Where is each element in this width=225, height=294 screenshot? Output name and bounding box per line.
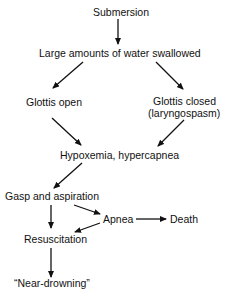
- node-apnea: Apnea: [103, 213, 133, 225]
- node-hypoxemia: Hypoxemia, hypercapnea: [60, 149, 179, 161]
- node-water-swallowed: Large amounts of water swallowed: [39, 47, 201, 59]
- arrow-water-to-glottis-open: [53, 62, 83, 88]
- node-glottis-open: Glottis open: [26, 96, 82, 108]
- node-glottis-closed: Glottis closed: [153, 95, 216, 107]
- arrow-glottis-closed-to-hypoxemia: [158, 120, 184, 146]
- flow-arrows: [0, 0, 225, 294]
- arrow-water-to-glottis-closed: [156, 62, 183, 89]
- node-submersion: Submersion: [93, 6, 149, 18]
- node-near-drowning: “Near-drowning”: [14, 277, 90, 289]
- node-laryngospasm: (laryngospasm): [148, 107, 220, 119]
- arrow-hypoxemia-to-gasp: [54, 163, 82, 188]
- node-death: Death: [170, 213, 198, 225]
- node-gasp-aspiration: Gasp and aspiration: [5, 190, 99, 202]
- arrow-glottis-open-to-hypoxemia: [52, 118, 81, 145]
- node-resuscitation: Resuscitation: [24, 233, 87, 245]
- arrow-gasp-to-apnea: [74, 205, 100, 214]
- arrow-apnea-to-resuscitation: [75, 223, 100, 232]
